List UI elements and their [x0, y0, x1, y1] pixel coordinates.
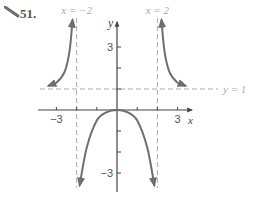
curve-left-branch	[48, 20, 72, 86]
asymptote-label: x = 2	[145, 4, 170, 16]
x-axis-label: x	[187, 114, 193, 126]
asymptote-label: x = −2	[60, 4, 92, 16]
x-tick-label: −3	[50, 113, 63, 125]
graph: x = −2x = 2y = 1xy−333−3	[0, 0, 262, 206]
y-tick-label: 3	[107, 41, 113, 53]
asymptote-label: y = 1	[222, 83, 246, 95]
x-tick-label: 3	[175, 113, 181, 125]
y-tick-label: −3	[100, 167, 113, 179]
curve-right-branch	[161, 20, 185, 86]
y-axis-label: y	[107, 16, 114, 30]
